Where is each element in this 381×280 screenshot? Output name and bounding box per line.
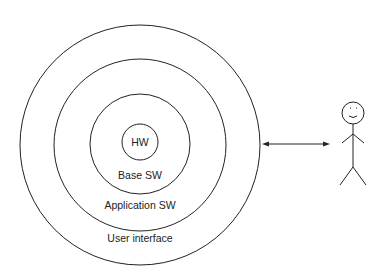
hw-label: HW	[131, 136, 149, 148]
layer-diagram: HW Base SW Application SW User interface	[0, 0, 381, 280]
bidirectional-arrow-icon	[262, 142, 330, 147]
user-stick-figure-icon	[340, 102, 366, 185]
user-interface-label: User interface	[107, 232, 173, 244]
application-sw-label: Application SW	[104, 199, 175, 211]
base-sw-label: Base SW	[118, 169, 162, 181]
